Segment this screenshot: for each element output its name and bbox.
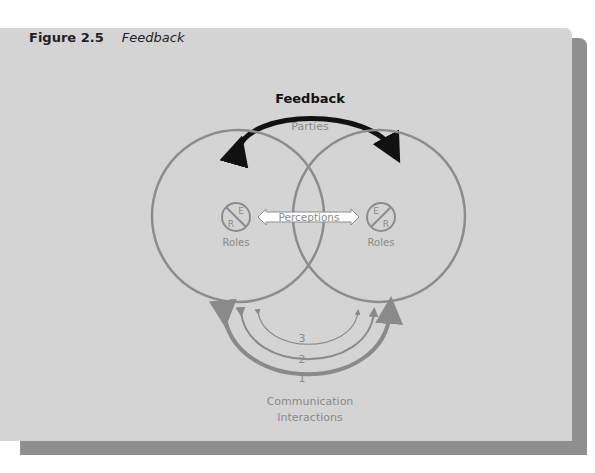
feedback-label: Feedback [275, 91, 345, 106]
feedback-diagram: Feedback Parties E R Roles E R Roles Per… [0, 0, 595, 473]
interaction-level-1: 1 [299, 372, 306, 385]
perceptions-label: Perceptions [279, 211, 340, 223]
svg-text:R: R [383, 219, 389, 229]
interaction-level-2: 2 [299, 353, 306, 366]
parties-label: Parties [291, 120, 329, 133]
roles-label-left: Roles [223, 237, 250, 248]
interaction-level-3: 3 [299, 332, 306, 345]
roles-icon-right: E R [367, 203, 395, 231]
interaction-arc-2 [241, 312, 374, 359]
interaction-arc-3 [258, 312, 358, 344]
communication-label: Communication [267, 395, 354, 408]
svg-text:E: E [373, 206, 379, 216]
interactions-label: Interactions [277, 411, 343, 424]
svg-text:R: R [228, 219, 234, 229]
svg-text:E: E [238, 206, 244, 216]
interaction-arc-1 [224, 312, 390, 374]
roles-icon-left: E R [222, 203, 250, 231]
roles-label-right: Roles [368, 237, 395, 248]
